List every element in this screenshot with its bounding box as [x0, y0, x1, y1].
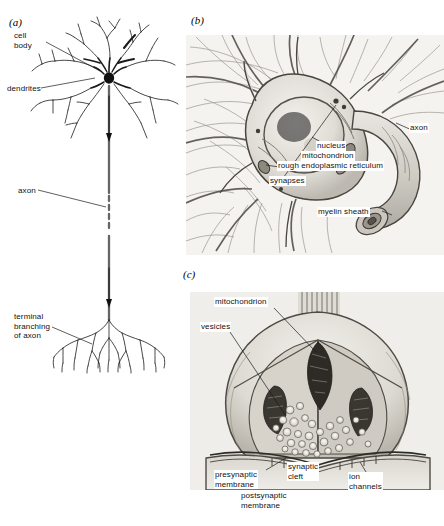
label-nucleus: nucleus [316, 141, 346, 151]
label-ion-channels: ion channels [348, 472, 383, 491]
label-synapses: synapses [269, 176, 306, 186]
panel-letter-b: (b) [191, 14, 204, 26]
neuron-figure: cell body dendrites axon terminal branch… [0, 0, 444, 526]
label-axon-b: axon [409, 123, 429, 133]
label-presynaptic-membrane: presynaptic membrane [214, 470, 258, 489]
panel-a: cell body dendrites axon terminal branch… [0, 0, 182, 400]
label-terminal-branching: terminal branching of axon [14, 312, 50, 341]
panel-b [186, 35, 444, 255]
label-mitochondrion-c: mitochondrion [214, 297, 268, 307]
label-mitochondrion-b: mitochondrion [301, 151, 355, 161]
label-dendrites: dendrites [7, 84, 41, 94]
label-vesicles: vesicles [200, 322, 231, 332]
label-synaptic-cleft: synaptic cleft [287, 462, 319, 481]
panel-letter-c: (c) [183, 268, 195, 280]
label-myelin-sheath: myelin sheath [317, 207, 370, 217]
label-axon-a: axon [18, 186, 36, 196]
panel-b-artwork [186, 35, 444, 255]
label-postsynaptic-membrane: postsynaptic membrane [240, 491, 288, 510]
label-rough-endoplasmic-reticulum: rough endoplasmic reticulum [277, 161, 384, 171]
label-cell-body: cell body [14, 31, 32, 50]
panel-letter-a: (a) [9, 16, 22, 28]
